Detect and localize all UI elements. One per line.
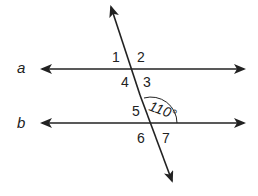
angle-1-label: 1 — [112, 49, 120, 65]
angle-3-label: 3 — [143, 74, 151, 90]
angle-2-label: 2 — [137, 49, 145, 65]
given-angle-label: 110° — [147, 98, 179, 123]
angle-6-label: 6 — [137, 130, 145, 146]
line-b-label: b — [17, 114, 25, 131]
angle-4-label: 4 — [121, 74, 129, 90]
angle-7-label: 7 — [162, 130, 170, 146]
angle-5-label: 5 — [132, 103, 140, 119]
parallel-lines-diagram: a b 1 2 3 4 5 6 7 110° — [0, 0, 258, 196]
diagram-canvas: a b 1 2 3 4 5 6 7 110° — [0, 0, 258, 196]
line-a-label: a — [17, 59, 25, 76]
